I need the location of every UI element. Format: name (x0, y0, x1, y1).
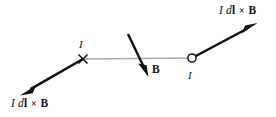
wire-segment (83, 58, 192, 59)
force-arrow-left (20, 59, 83, 96)
physics-force-diagram: I dl × B I dl × B I I B (0, 0, 276, 117)
force-label-bottom-left: I dl × B (11, 98, 48, 110)
current-label-left: I (79, 39, 83, 50)
force-arrow-right-shaft (192, 29, 248, 59)
field-label-b: B (152, 64, 160, 76)
field-arrow-b (128, 34, 149, 77)
current-label-right: I (188, 70, 192, 81)
open-circle-marker (188, 54, 196, 62)
force-arrow-right-head (242, 23, 258, 34)
force-arrow-left-shaft (31, 59, 84, 89)
force-label-top-right: I dl × B (219, 5, 256, 17)
force-label-top-right-field: B (249, 4, 257, 16)
field-arrow-b-shaft (128, 34, 143, 66)
field-arrow-b-head (138, 63, 148, 77)
force-arrow-right (192, 23, 258, 58)
force-label-bottom-left-field: B (41, 97, 49, 109)
